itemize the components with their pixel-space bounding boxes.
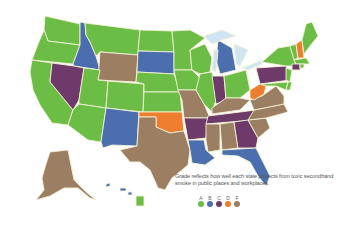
state-mi [216,40,236,74]
state-az [68,104,106,142]
legend-item-f: F [234,195,240,207]
state-ar [184,118,208,140]
state-hi-islands [106,183,132,195]
state-me [302,22,318,54]
legend-dot-icon [207,201,213,207]
lake-huron [234,44,248,66]
state-nj [286,68,292,82]
legend-dot-icon [216,201,222,207]
lake-michigan [212,50,218,72]
state-pa [256,66,290,84]
state-ct [292,64,300,70]
state-wi [190,44,212,74]
state-nm [101,108,139,148]
us-map [0,0,340,233]
state-ms [206,124,220,152]
state-oh [224,70,250,98]
state-sd [137,51,174,74]
legend-dot-icon [198,201,204,207]
state-co [106,81,144,112]
legend-dot-icon [225,201,231,207]
legend-dot-icon [234,201,240,207]
legend-item-b: B [207,195,213,207]
state-ia [174,70,200,90]
state-ri [300,64,304,68]
state-nd [138,30,174,52]
state-ks [143,92,182,112]
state-wa [44,16,80,45]
state-wy [98,52,138,82]
grade-legend: A B C D F [198,195,240,207]
state-hi [136,196,144,206]
state-ak [36,150,96,200]
legend-item-a: A [198,195,204,207]
map-caption: Grade reflects how well each state prote… [175,173,340,187]
legend-item-d: D [225,195,231,207]
legend-item-c: C [216,195,222,207]
